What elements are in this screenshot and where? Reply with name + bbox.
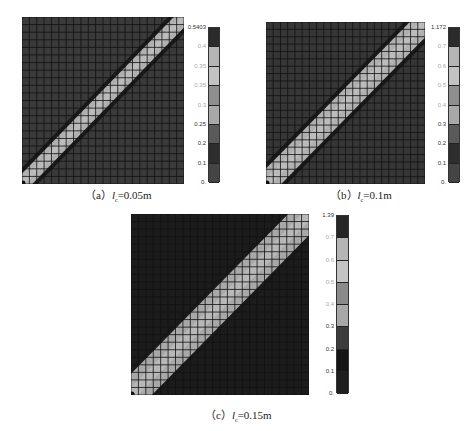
colorbar-tick-label: 0.2 — [310, 346, 334, 353]
colorbar-tick-label: 0.3 — [182, 102, 206, 109]
colorbar-tick-label: 0.3 — [422, 121, 446, 128]
colorbar-segment — [337, 350, 348, 372]
colorbar-tick-label: 0. — [182, 179, 206, 186]
colorbar-tick-label: 0.35 — [182, 63, 206, 70]
colorbar-tick-label: 0.4 — [310, 301, 334, 308]
colorbar-tick-label: 0. — [310, 390, 334, 397]
colorbar-c — [336, 215, 349, 393]
colorbar-segment — [337, 305, 348, 327]
colorbar-tick-label: 0.35 — [182, 82, 206, 89]
colorbar-segment — [337, 372, 348, 394]
colorbar-tick-label: 0. — [422, 179, 446, 186]
colorbar-tick-label: 0.7 — [422, 43, 446, 50]
colorbar-tick-label: 0.7 — [310, 234, 334, 241]
colorbar-tick-label: 0.2 — [422, 140, 446, 147]
colorbar-tick-label: 1.172 — [422, 24, 446, 31]
colorbar-tick-label: 0.1 — [310, 368, 334, 375]
colorbar-tick-label: 0.4 — [182, 43, 206, 50]
colorbar-tick-label: 0.6 — [422, 63, 446, 70]
colorbar-segment — [337, 261, 348, 283]
colorbar-segment — [337, 283, 348, 305]
colorbar-tick-label: 0.3 — [310, 323, 334, 330]
colorbar-tick-label: 0.6 — [310, 257, 334, 264]
contour-svg-c — [131, 214, 309, 395]
panel-c: （c）lc=0.15m — [0, 0, 474, 431]
colorbar-tick-label: 0.1 — [422, 160, 446, 167]
colorbar-tick-label: 0.2 — [182, 140, 206, 147]
colorbar-tick-label: 0.5 — [422, 82, 446, 89]
colorbar-tick-label: 0.5403 — [182, 24, 206, 31]
caption-c: （c）lc=0.15m — [205, 406, 272, 423]
colorbar-tick-label: 0.25 — [182, 121, 206, 128]
contour-plot-c — [131, 214, 309, 395]
colorbar-segment — [337, 327, 348, 349]
colorbar-tick-label: 0.4 — [422, 102, 446, 109]
colorbar-tick-label: 0.5 — [310, 279, 334, 286]
colorbar-tick-label: 0.1 — [182, 160, 206, 167]
colorbar-segment — [337, 238, 348, 260]
colorbar-tick-label: 1.39 — [310, 212, 334, 219]
colorbar-segment — [337, 216, 348, 238]
